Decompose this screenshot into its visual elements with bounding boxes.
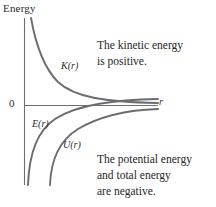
- energy-curves-figure: Energy 0 r K(r) E(r) U(r) The kinetic en…: [0, 0, 216, 207]
- annotation-line: The potential energy: [97, 152, 192, 168]
- y-axis-label: Energy: [3, 2, 36, 14]
- origin-label: 0: [9, 97, 15, 109]
- annotation-line: is positive.: [97, 54, 183, 70]
- x-axis-label: r: [159, 96, 163, 107]
- annotation-line: and total energy: [97, 168, 192, 184]
- total-energy-curve-label: E(r): [32, 118, 49, 129]
- annotation-line: are negative.: [97, 184, 192, 200]
- kinetic-energy-curve-label: K(r): [61, 60, 78, 71]
- potential-energy-annotation: The potential energy and total energy ar…: [97, 152, 192, 200]
- potential-energy-curve-label: U(r): [63, 139, 81, 150]
- annotation-line: The kinetic energy: [97, 38, 183, 54]
- kinetic-energy-annotation: The kinetic energy is positive.: [97, 38, 183, 70]
